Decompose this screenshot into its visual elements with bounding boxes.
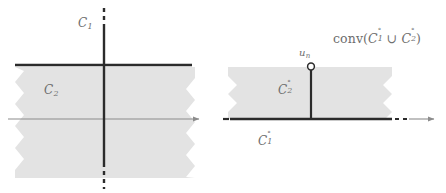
label-c2-polar-degree-icon: ° xyxy=(287,80,291,87)
label-c1-polar: C1° xyxy=(258,133,272,147)
conv-prefix: conv( xyxy=(333,31,368,46)
label-c2-polar-base: C xyxy=(278,83,287,97)
conv-term-a-subscript: 1 xyxy=(378,35,383,43)
figure-canvas: C1 C2 conv(C1° ∪ C2°) un C2° C1° xyxy=(0,0,446,193)
conv-term-b-base: C xyxy=(401,31,411,46)
conv-term-b-degree-icon: ° xyxy=(411,28,415,35)
conv-term-a-degree-icon: ° xyxy=(378,28,382,35)
conv-term-b-marks: 2° xyxy=(411,30,416,43)
label-c1-polar-base: C xyxy=(258,134,267,148)
label-c1-base: C xyxy=(78,16,87,30)
label-c2-polar-marks: 2° xyxy=(287,82,292,94)
un-open-circle-point xyxy=(308,63,315,70)
label-c1-polar-degree-icon: ° xyxy=(267,131,271,138)
conv-term-a-base: C xyxy=(368,31,378,46)
label-c2-subscript: 2 xyxy=(53,89,58,98)
label-c1-subscript: 1 xyxy=(87,22,92,31)
label-conv-union: conv(C1° ∪ C2°) xyxy=(333,30,421,45)
label-un-subscript: n xyxy=(305,52,310,60)
conv-term-b-subscript: 2 xyxy=(411,35,416,43)
label-c1-polar-marks: 1° xyxy=(267,133,272,145)
label-c1: C1 xyxy=(78,17,93,31)
conv-union-symbol: ∪ xyxy=(383,31,402,46)
conv-suffix: ) xyxy=(416,31,421,46)
label-c1-polar-subscript: 1 xyxy=(267,138,272,146)
conv-term-a-marks: 1° xyxy=(378,30,383,43)
label-c2-polar: C2° xyxy=(278,82,292,96)
label-c2-base: C xyxy=(44,83,53,97)
label-un: un xyxy=(299,48,310,60)
label-c2-polar-subscript: 2 xyxy=(287,87,292,95)
label-c2: C2 xyxy=(44,84,59,98)
